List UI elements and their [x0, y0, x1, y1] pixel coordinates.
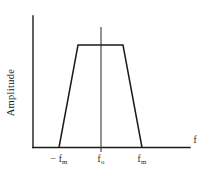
x-tick-label-minus-fm-base: − f [51, 154, 63, 164]
x-tick-label-fm: fm [138, 154, 147, 165]
x-tick-label-fm-sub: m [141, 158, 147, 165]
x-tick-label-fo: fo [98, 154, 105, 165]
figure-canvas: − fm fo fm f [0, 0, 208, 169]
x-tick-label-minus-fm: − fm [51, 154, 69, 165]
spectrum-figure: − fm fo fm f Amplitude [0, 0, 208, 169]
x-axis-name-label: f [193, 135, 197, 145]
x-tick-label-fo-sub: o [101, 158, 105, 165]
x-tick-label-minus-fm-sub: m [62, 158, 68, 165]
